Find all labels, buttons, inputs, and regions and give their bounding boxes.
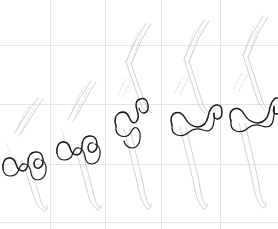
sketch-figure — [0, 0, 278, 229]
sketch-canvas — [0, 0, 278, 229]
